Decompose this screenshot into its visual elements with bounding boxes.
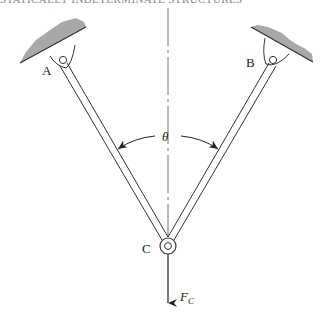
joint-c (160, 238, 176, 254)
pin-c-icon (165, 243, 172, 250)
pin-b-icon (269, 56, 276, 63)
member-ac (60, 63, 168, 240)
label-force: FC (179, 289, 195, 306)
truss-diagram: A B C θ FC (0, 0, 325, 319)
label-theta: θ (162, 129, 169, 144)
label-c: C (142, 241, 151, 256)
member-bc (168, 63, 276, 240)
support-a (20, 18, 86, 68)
force-subscript: C (188, 296, 195, 306)
support-b (251, 25, 313, 65)
angle-arc-right (181, 136, 218, 149)
angle-arc-left (118, 136, 155, 149)
label-b: B (246, 55, 255, 70)
diagram-canvas: STATICALLY INDETERMINATE STRUCTURES (0, 0, 325, 319)
label-a: A (42, 63, 52, 78)
page-header-text: STATICALLY INDETERMINATE STRUCTURES (0, 0, 325, 5)
pin-a-icon (59, 56, 66, 63)
